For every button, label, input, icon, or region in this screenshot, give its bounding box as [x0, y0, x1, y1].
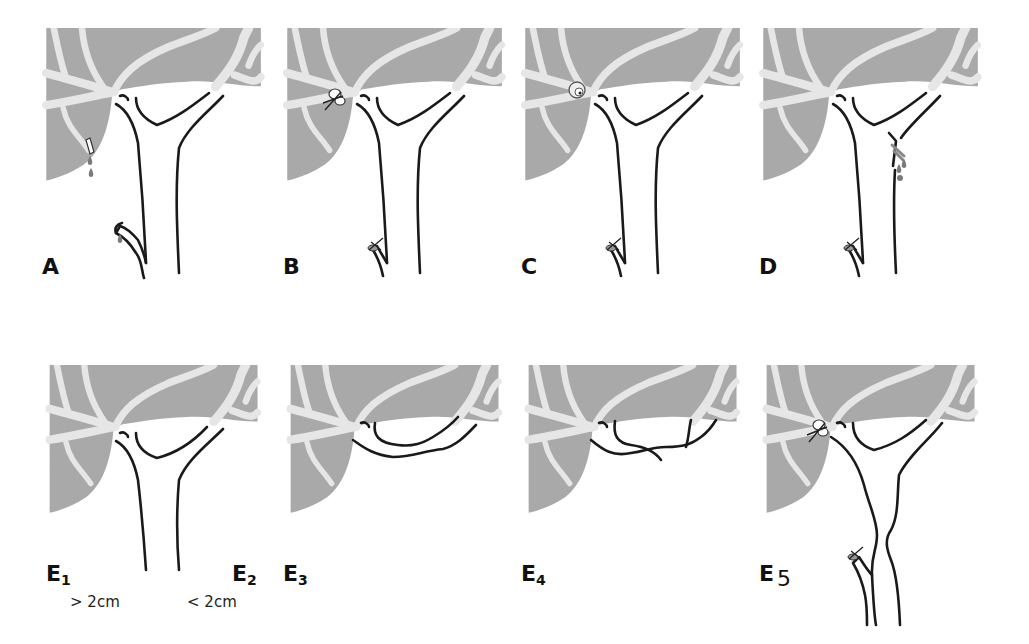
surgical-clip-icon: [606, 238, 621, 251]
bile-duct-diagram-e4: [521, 365, 761, 615]
bile-drop-icon: [89, 168, 94, 177]
length-note-e1: > 2cm: [70, 593, 120, 611]
panel-e1-e2: E1 E2 > 2cm < 2cm: [42, 365, 282, 644]
panel-c: C: [521, 28, 761, 308]
panel-b: B: [283, 28, 523, 308]
panel-label-e3: E3: [283, 563, 308, 587]
panel-e4: E4: [521, 365, 761, 644]
panel-label-e4: E4: [521, 563, 546, 587]
panel-a: A: [42, 28, 282, 308]
panel-d: D: [759, 28, 999, 308]
bile-duct-diagram-d: [759, 28, 999, 278]
length-note-e2: < 2cm: [187, 593, 237, 611]
bile-duct-diagram-c: [521, 28, 761, 278]
panel-label-c: C: [521, 256, 537, 278]
panel-label-b: B: [283, 256, 300, 278]
bile-duct-diagram-a: [42, 28, 282, 278]
surgical-clip-icon: [368, 238, 383, 251]
panel-label-d: D: [759, 256, 777, 278]
bile-duct-diagram-e3: [283, 365, 523, 615]
panel-label-e1: E1: [46, 563, 71, 587]
panel-label-a: A: [42, 256, 59, 278]
panel-e3: E3: [283, 365, 523, 644]
bile-duct-diagram-b: [283, 28, 523, 278]
surgical-clip-icon: [844, 238, 859, 251]
panel-label-e5: E5: [759, 563, 791, 590]
bile-duct-diagram-e5: [759, 365, 999, 644]
panel-e5: E5: [759, 365, 999, 644]
transected-duct-icon: [569, 82, 585, 98]
panel-label-e2: E2: [232, 563, 257, 587]
surgical-clip-icon: [848, 547, 863, 560]
